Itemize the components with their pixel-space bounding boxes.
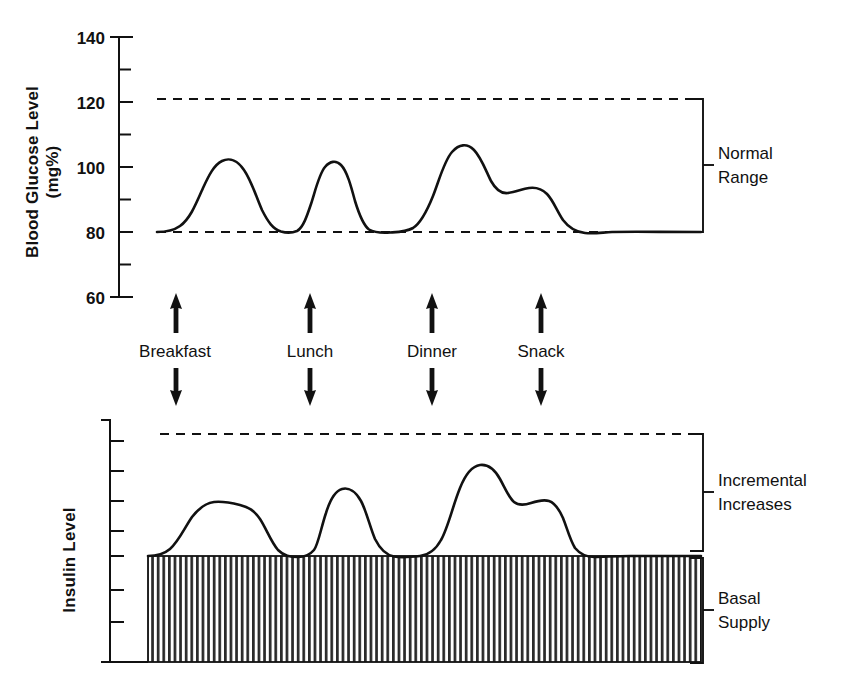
basal-supply-label-line1: Basal	[718, 589, 761, 608]
basal-supply-hatched-area	[148, 556, 701, 662]
normal-range-label-line1: Normal	[718, 144, 773, 163]
insulin-axis-title: Insulin Level	[60, 507, 79, 613]
tick-label-140: 140	[77, 29, 105, 48]
blood-glucose-axis-title: Blood Glucose Level	[23, 86, 42, 258]
meal-label-lunch: Lunch	[287, 342, 333, 361]
meal-label-dinner: Dinner	[407, 342, 457, 361]
tick-label-80: 80	[86, 224, 105, 243]
meal-label-breakfast: Breakfast	[139, 342, 211, 361]
normal-range-label-line2: Range	[718, 168, 768, 187]
incremental-increases-label-line2: Increases	[718, 495, 792, 514]
meal-label-snack: Snack	[517, 342, 565, 361]
blood-glucose-axis-units: (mg%)	[43, 146, 62, 199]
chart-figure: Blood Glucose Level (mg%) 140 120 100 80…	[0, 0, 842, 682]
figure-container: Blood Glucose Level (mg%) 140 120 100 80…	[0, 0, 842, 682]
incremental-increases-label-line1: Incremental	[718, 471, 807, 490]
basal-supply-label-line2: Supply	[718, 613, 770, 632]
tick-label-60: 60	[86, 289, 105, 308]
tick-label-100: 100	[77, 159, 105, 178]
tick-label-120: 120	[77, 94, 105, 113]
